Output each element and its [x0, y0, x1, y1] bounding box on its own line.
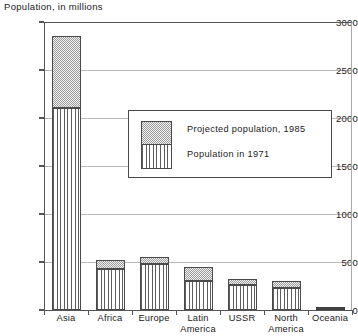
vertical-lines-swatch [142, 145, 171, 168]
bar-segment-population-1971 [52, 108, 81, 310]
x-axis-tick [352, 310, 353, 315]
bar-segment-projected-1985 [316, 307, 345, 310]
x-axis-label-oceania: Oceania [304, 313, 356, 324]
bar-segment-population-1971 [272, 288, 301, 310]
bar-africa [96, 260, 125, 310]
population-bar-chart: Population, in millions 0500100015002000… [0, 0, 358, 336]
bar-north-america [272, 281, 301, 310]
bar-europe [140, 257, 169, 310]
bar-segment-population-1971 [184, 281, 213, 310]
legend: Projected population, 1985 Population in… [128, 110, 332, 178]
bar-segment-population-1971 [140, 264, 169, 310]
bar-segment-population-1971 [228, 285, 257, 310]
stipple-swatch [142, 122, 171, 145]
legend-label-projected: Projected population, 1985 [187, 124, 305, 134]
legend-label-population: Population in 1971 [187, 149, 269, 159]
y-axis-title: Population, in millions [4, 1, 103, 12]
bar-segment-population-1971 [96, 269, 125, 310]
bar-latin-america [184, 267, 213, 310]
bar-asia [52, 36, 81, 310]
bar-segment-projected-1985 [140, 257, 169, 264]
bar-segment-projected-1985 [272, 281, 301, 288]
bar-segment-projected-1985 [52, 36, 81, 108]
bar-segment-projected-1985 [96, 260, 125, 269]
bar-segment-projected-1985 [184, 267, 213, 281]
bar-oceania [316, 307, 345, 310]
bar-ussr [228, 279, 257, 310]
legend-swatch [141, 121, 172, 169]
